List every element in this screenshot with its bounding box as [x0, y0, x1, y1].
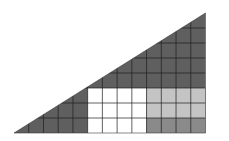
grid-triangle-diagram: [0, 0, 229, 141]
